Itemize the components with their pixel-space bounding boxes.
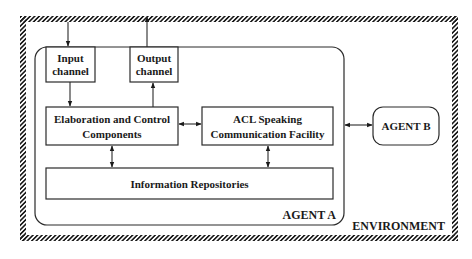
input-channel-label-1: Input [57, 52, 84, 64]
acl-label-2: Communication Facility [211, 128, 325, 140]
input-channel-label-2: channel [52, 65, 89, 77]
elaboration-label-1: Elaboration and Control [54, 113, 170, 125]
output-channel-label-2: channel [136, 65, 173, 77]
agent-b-label: AGENT B [381, 120, 431, 132]
agent-a-label: AGENT A [283, 208, 337, 222]
acl-label-1: ACL Speaking [233, 113, 302, 125]
environment-label: ENVIRONMENT [352, 219, 445, 233]
output-channel-label-1: Output [137, 52, 172, 64]
repositories-label: Information Repositories [130, 178, 249, 190]
architecture-diagram: ENVIRONMENT AGENT A Input channel Output… [0, 0, 472, 259]
elaboration-label-2: Components [82, 128, 142, 140]
